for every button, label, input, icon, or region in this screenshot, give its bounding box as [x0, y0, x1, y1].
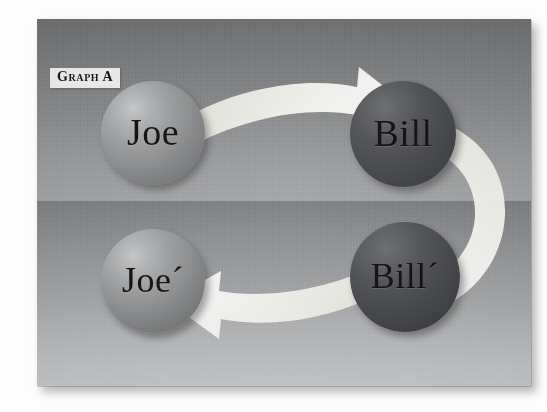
node-joe[interactable]: Joe: [101, 81, 205, 185]
slide-frame: Joe Bill Joe´ Bill´ Graph A: [37, 19, 531, 386]
node-bill-prime[interactable]: Bill´: [350, 222, 460, 332]
node-joe-prime-label: Joe´: [122, 259, 184, 301]
node-joe-prime[interactable]: Joe´: [101, 229, 205, 333]
node-bill-prime-label: Bill´: [371, 255, 440, 297]
figure-stage: Joe Bill Joe´ Bill´ Graph A: [0, 0, 547, 412]
node-joe-label: Joe: [127, 110, 179, 154]
node-bill[interactable]: Bill: [350, 81, 456, 187]
node-bill-label: Bill: [373, 111, 432, 155]
graph-caption-label: Graph A: [50, 68, 120, 88]
